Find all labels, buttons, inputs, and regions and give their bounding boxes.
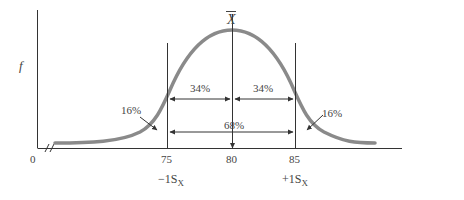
minus-sd-subscript: X [177, 178, 184, 188]
pct-16-right: 16% [322, 107, 342, 119]
tick-75: 75 [161, 153, 173, 165]
mean-label: X [226, 12, 236, 27]
tick-0: 0 [30, 153, 36, 165]
minus-sd-label: −1SX [158, 172, 184, 188]
normal-distribution-diagram: f X 34% 34% 68% 16% 16% 0 75 80 85 −1SX … [0, 0, 464, 200]
plus-sd-subscript: X [301, 178, 308, 188]
pct-34-right: 34% [253, 82, 273, 94]
tick-80: 80 [226, 153, 238, 165]
normal-curve [55, 30, 375, 143]
pct-68: 68% [224, 119, 244, 131]
tick-85: 85 [289, 153, 301, 165]
pct-34-left: 34% [190, 82, 210, 94]
pct-16-left: 16% [121, 104, 141, 116]
plus-sd-label: +1SX [282, 172, 308, 188]
y-axis-label: f [19, 58, 25, 73]
